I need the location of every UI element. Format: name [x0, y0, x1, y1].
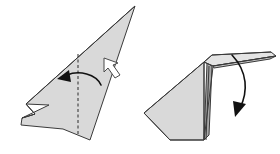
- fold-down-arrow-head: [233, 101, 246, 117]
- step-right-group: [144, 52, 276, 140]
- step-left-group: [21, 6, 135, 140]
- origami-diagram-canvas: [0, 0, 280, 154]
- origami-diagram: [0, 0, 280, 154]
- left-large-face: [144, 62, 204, 140]
